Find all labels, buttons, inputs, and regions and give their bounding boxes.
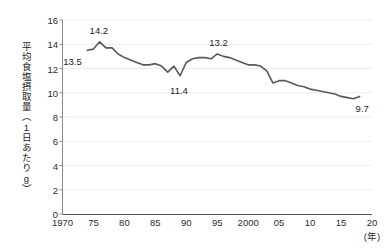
x-axis-unit-label: (年) [364,229,380,243]
data-series-line [87,42,359,99]
plot-area [0,0,391,251]
x-tick-label: 85 [150,217,161,228]
data-point-label: 13.5 [63,56,82,67]
x-tick-label: 75 [88,217,99,228]
x-tick-label: 2000 [238,217,259,228]
x-tick-label: 90 [181,217,192,228]
x-tick-label: 15 [336,217,347,228]
data-point-label: 11.4 [170,85,188,96]
x-tick-label: 95 [212,217,223,228]
chart-container: 平均食塩摂取量（1日あたりg） 0246810121416 1970758085… [0,0,391,251]
data-point-label: 13.2 [209,37,228,48]
x-tick-label: 20 [367,217,378,228]
x-tick-label: 10 [305,217,316,228]
data-point-label: 9.7 [356,103,369,114]
data-point-label: 14.2 [90,25,109,36]
x-tick-label: 1970 [52,217,73,228]
x-tick-label: 80 [119,217,130,228]
x-tick-label: 05 [274,217,285,228]
